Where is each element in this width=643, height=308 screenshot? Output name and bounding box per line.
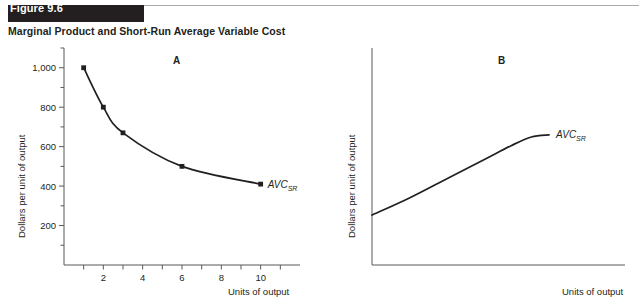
svg-text:8: 8: [219, 272, 224, 283]
panel-a-x-ticks: [84, 265, 281, 270]
panel-a-curve-label: AVCSR: [267, 179, 298, 192]
figure-tag-label: Figure 9.6: [10, 2, 63, 14]
svg-text:4: 4: [140, 272, 145, 283]
panel-a-avc-curve: [84, 68, 261, 184]
svg-text:600: 600: [40, 141, 56, 152]
svg-text:2: 2: [101, 272, 106, 283]
figure-subtitle: Marginal Product and Short-Run Average V…: [8, 25, 285, 37]
panel-b-plot: AVCSR: [330, 42, 643, 308]
panel-a-y-tick-labels: 2004006008001,000: [32, 62, 56, 231]
panel-a-y-ticks: [59, 48, 64, 245]
chart-panel-b: B Dollars per unit of output Units of ou…: [330, 42, 643, 308]
panel-a-plot: 2004006008001,000 246810 AVCSR: [0, 42, 330, 308]
header-divider: [144, 5, 639, 6]
svg-text:10: 10: [255, 272, 266, 283]
panel-b-avc-curve: [372, 135, 549, 215]
chart-panel-a: A Dollars per unit of output Units of ou…: [0, 42, 330, 308]
svg-text:1,000: 1,000: [32, 62, 56, 73]
panel-a-data-markers: [81, 65, 263, 186]
svg-text:400: 400: [40, 181, 56, 192]
panel-a-x-tick-labels: 246810: [101, 272, 266, 283]
svg-text:200: 200: [40, 220, 56, 231]
svg-text:6: 6: [179, 272, 184, 283]
panel-b-curve-label: AVCSR: [555, 129, 586, 142]
svg-text:800: 800: [40, 102, 56, 113]
